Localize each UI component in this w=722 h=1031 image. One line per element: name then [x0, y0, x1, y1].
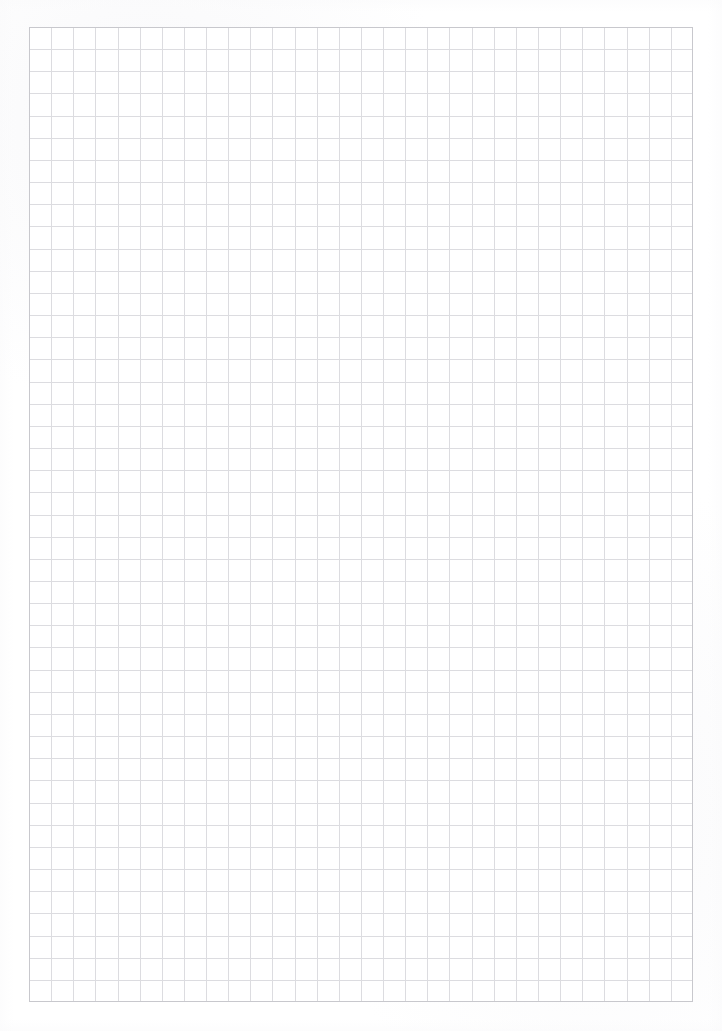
grid-paper-area [29, 27, 693, 1002]
grid-ruling-lines [29, 27, 693, 1002]
page-canvas [0, 0, 722, 1031]
grid-outer-border [29, 27, 693, 1002]
